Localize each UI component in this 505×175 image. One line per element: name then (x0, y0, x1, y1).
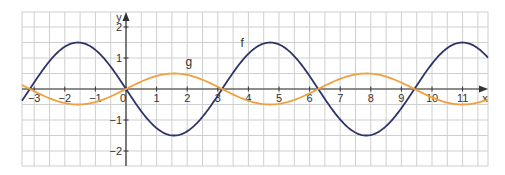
x-tick-label: 2 (184, 92, 190, 104)
y-tick-label: −2 (109, 145, 122, 157)
x-tick-label: 0 (120, 92, 126, 104)
axes (22, 12, 488, 166)
x-tick-label: 5 (276, 92, 282, 104)
x-axis-label: x (482, 92, 488, 104)
x-tick-label: 9 (398, 92, 404, 104)
x-tick-label: 1 (154, 92, 160, 104)
x-tick-label: 7 (337, 92, 343, 104)
curve-label-g: g (185, 55, 192, 69)
y-axis-arrow-icon (123, 12, 130, 21)
y-tick-label: 1 (116, 52, 122, 64)
y-tick-label: −1 (109, 114, 122, 126)
x-tick-label: 8 (368, 92, 374, 104)
x-tick-label: 11 (457, 92, 468, 104)
y-axis-label: y (116, 11, 122, 23)
curve-label-f: f (241, 36, 245, 50)
function-graph: −3−2−101234567891011−2−112xy fg (0, 0, 505, 175)
curve-labels: fg (185, 36, 244, 69)
